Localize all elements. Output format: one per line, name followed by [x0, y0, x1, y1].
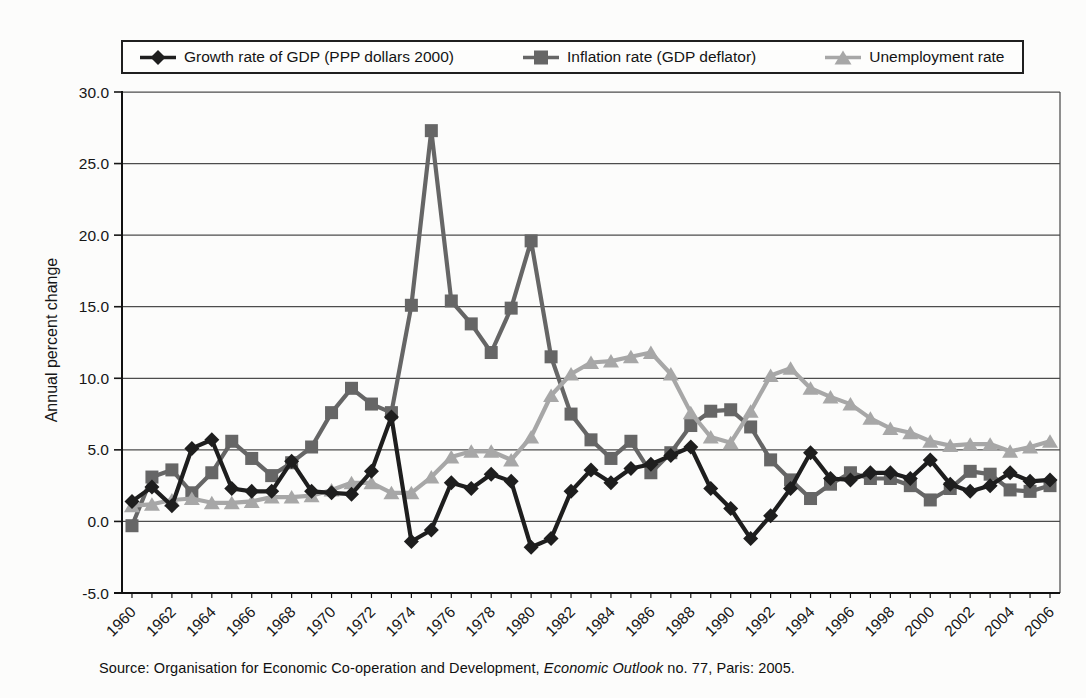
y-tick-label: 10.0: [79, 370, 110, 387]
y-tick-label: 5.0: [87, 441, 109, 458]
x-tick-label: 2004: [981, 603, 1018, 640]
gridlines: [122, 92, 1060, 593]
x-tick-label: 1972: [342, 603, 378, 639]
x-tick-label: 1992: [741, 603, 777, 639]
source-text: Source: Organisation for Economic Co-ope…: [99, 660, 544, 676]
y-tick-label: 0.0: [87, 513, 109, 530]
x-tick-label: 1980: [502, 603, 539, 640]
source-title-italic: Economic Outlook: [544, 660, 663, 676]
y-tick-label: 30.0: [79, 84, 110, 101]
x-tick-label: 1984: [582, 603, 619, 640]
x-tick-label: 1976: [422, 603, 458, 639]
x-tick-label: 1974: [382, 603, 419, 640]
x-tick-label: 1962: [143, 603, 179, 639]
x-tick-label: 1996: [821, 603, 857, 639]
series-triangle-line: [124, 346, 1058, 513]
y-axis: 30.025.020.015.010.05.00.0-5.0: [79, 84, 122, 602]
y-tick-label: 15.0: [79, 298, 110, 315]
x-tick-label: 1966: [222, 603, 258, 639]
y-tick-label: 20.0: [79, 227, 110, 244]
x-tick-label: 1970: [302, 603, 339, 640]
axes: [114, 91, 1060, 593]
figure-scan: Growth rate of GDP (PPP dollars 2000) In…: [0, 0, 1086, 698]
x-tick-label: 1994: [781, 603, 818, 640]
chart-canvas: 30.025.020.015.010.05.00.0-5.01960196219…: [0, 0, 1086, 656]
x-tick-label: 1968: [262, 603, 298, 639]
x-axis: 1960196219641966196819701972197419761978…: [103, 593, 1057, 640]
y-tick-label: -5.0: [82, 585, 109, 602]
x-tick-label: 1990: [701, 603, 738, 640]
source-suffix: no. 77, Paris: 2005.: [663, 660, 795, 676]
x-tick-label: 1982: [542, 603, 578, 639]
x-tick-label: 1988: [662, 603, 698, 639]
x-tick-label: 1964: [183, 603, 220, 640]
x-tick-label: 1978: [462, 603, 498, 639]
series-diamond-line: [124, 409, 1057, 554]
x-tick-label: 1960: [103, 603, 140, 640]
source-note: Source: Organisation for Economic Co-ope…: [99, 660, 795, 676]
x-tick-label: 1998: [861, 603, 897, 639]
x-tick-label: 2000: [901, 603, 938, 640]
y-tick-label: 25.0: [79, 155, 110, 172]
x-tick-label: 2006: [1021, 603, 1057, 639]
x-tick-label: 2002: [941, 603, 977, 639]
x-tick-label: 1986: [622, 603, 658, 639]
